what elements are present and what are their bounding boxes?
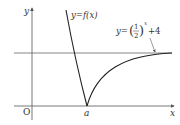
curve-left-label: y=f(x) [70,10,98,20]
curve-right-branch [87,53,172,106]
svg-text:2: 2 [134,32,138,40]
svg-text:+4: +4 [148,26,161,36]
x-axis-label: x [170,108,175,118]
origin-label: O [23,107,30,117]
label-pointer [150,38,155,52]
curve-left-branch [66,10,87,106]
svg-text:y=: y= [115,26,128,36]
y-axis-label: y [23,6,30,16]
svg-text:1: 1 [134,23,138,31]
function-graph: y x O a y=f(x) y= ( 1 2 ) x +4 [0,0,180,125]
curve-right-label: y= ( 1 2 ) x +4 [115,20,161,40]
point-a-label: a [84,108,89,118]
